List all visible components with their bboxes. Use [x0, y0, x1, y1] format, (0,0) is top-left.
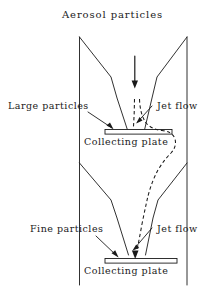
lower-collecting-plate-bar [105, 259, 177, 264]
jet-streamline-center-upper [133, 99, 134, 129]
figure-title: Aerosol particles [62, 10, 163, 20]
label-large-particles: Large particles [8, 101, 89, 111]
label-collecting-plate-upper: Collecting plate [84, 137, 168, 147]
leader-arrowhead-jet-lower [133, 245, 140, 251]
upper-nozzle-right [145, 37, 188, 130]
lower-nozzle-left [80, 163, 129, 255]
upper-nozzle-left [80, 37, 128, 130]
label-fine-particles: Fine particles [30, 224, 103, 234]
lower-jet-arrow-icon [132, 251, 139, 260]
label-collecting-plate-lower: Collecting plate [84, 266, 168, 276]
label-jet-flow-lower: Jet flow [157, 224, 198, 234]
label-jet-flow-upper: Jet flow [157, 101, 198, 111]
impactor-diagram: Aerosol particles Large particles Jet fl… [0, 0, 219, 291]
leader-arrowhead-large [107, 123, 114, 130]
down-arrow-icon [132, 81, 138, 89]
lower-nozzle-right [146, 163, 188, 255]
